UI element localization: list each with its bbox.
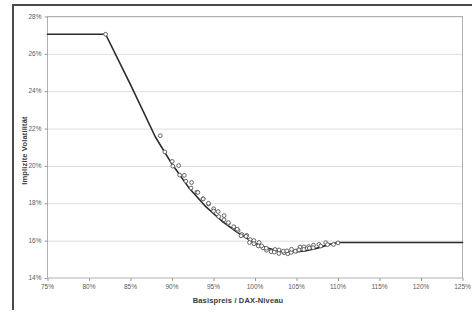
data-point: [319, 244, 323, 248]
data-point: [170, 159, 174, 163]
data-point: [248, 241, 252, 245]
chart-figure: 14%16%18%20%22%24%26%28% 75%80%85%90%95%…: [0, 0, 476, 314]
x-axis-title: Basispreis / DAX-Niveau: [0, 296, 476, 305]
data-point: [272, 250, 276, 254]
data-point: [163, 150, 167, 154]
x-tick-label: 100%: [240, 283, 270, 290]
data-point: [222, 214, 226, 218]
x-tick-label: 110%: [323, 283, 353, 290]
x-tick-label: 105%: [282, 283, 312, 290]
x-tick-label: 95%: [199, 283, 229, 290]
volatility-smile-plot: [0, 0, 476, 314]
data-point: [190, 181, 194, 185]
data-point: [297, 248, 301, 252]
data-point: [252, 242, 256, 246]
data-point: [307, 246, 311, 250]
data-point: [311, 246, 315, 250]
data-point: [235, 227, 239, 231]
data-point: [207, 201, 211, 205]
y-tick-label: 26%: [20, 50, 42, 57]
x-tick-label: 80%: [74, 283, 104, 290]
data-point: [104, 32, 108, 36]
data-point: [232, 225, 236, 229]
data-point: [290, 247, 294, 251]
data-point: [244, 234, 248, 238]
data-point: [212, 209, 216, 213]
data-point: [158, 134, 162, 138]
x-tick-label: 90%: [157, 283, 187, 290]
x-tick-label: 120%: [406, 283, 436, 290]
data-point: [264, 246, 268, 250]
y-tick-label: 14%: [20, 274, 42, 281]
x-tick-label: 115%: [365, 283, 395, 290]
y-axis-title: Implizite Volatilität: [20, 81, 29, 221]
gridlines: [48, 17, 463, 241]
data-point: [196, 191, 200, 195]
data-point: [222, 218, 226, 222]
data-point: [178, 173, 182, 177]
y-tick-label: 28%: [20, 13, 42, 20]
data-point: [336, 241, 340, 245]
y-tick-label: 16%: [20, 237, 42, 244]
data-point: [171, 164, 175, 168]
data-point: [217, 215, 221, 219]
data-point: [326, 243, 330, 247]
data-point: [332, 243, 336, 247]
data-point: [227, 221, 231, 225]
x-tick-label: 75%: [33, 283, 63, 290]
data-point: [277, 252, 281, 256]
scatter-points: [104, 32, 340, 255]
data-point: [260, 244, 264, 248]
data-point: [201, 197, 205, 201]
data-point: [184, 179, 188, 183]
data-point: [285, 249, 289, 253]
data-point: [189, 186, 193, 190]
data-point: [182, 173, 186, 177]
smile-fit-line: [48, 34, 463, 252]
data-point: [302, 248, 306, 252]
x-tick-label: 125%: [448, 283, 476, 290]
data-point: [177, 164, 181, 168]
data-point: [216, 210, 220, 214]
x-tick-label: 85%: [116, 283, 146, 290]
data-point: [239, 234, 243, 238]
